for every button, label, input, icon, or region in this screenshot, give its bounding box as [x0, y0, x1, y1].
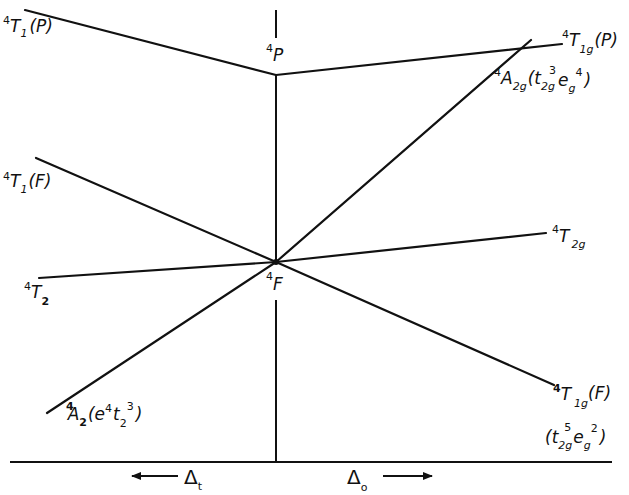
tetrahedral-field-indicator: Δt [132, 465, 203, 493]
line-4T1g-F-right [276, 262, 554, 385]
line-4T1-P-left [25, 10, 276, 75]
line-4T1-F-left [36, 158, 276, 262]
label-4T1-P: 4T1(P) [3, 14, 53, 40]
svg-text:Δo: Δo [347, 465, 368, 494]
label-4P: 4P [266, 42, 284, 65]
label-4T1g-P: 4T1g(P) [562, 28, 618, 56]
label-4T1-F: 4T1(F) [3, 170, 51, 196]
label-4A2: 4A2(e4t23) [66, 400, 142, 430]
line-4T2g-right [276, 233, 546, 262]
line-4A2-left [47, 262, 276, 413]
line-4A2g-right [276, 40, 531, 262]
label-4A2g: 4A2g(t2g3eg4) [494, 64, 591, 95]
octahedral-field-indicator: Δo [347, 465, 432, 494]
label-4T1g-F: 4T1g(F) [553, 382, 611, 410]
line-4T2-left [39, 262, 276, 278]
label-t1gf-configuration: (t2g5eg2) [545, 421, 606, 452]
line-4T1g-P-right [276, 44, 562, 75]
F-term-node [273, 259, 279, 265]
correlation-diagram: 4T1(P) 4P 4T1g(P) 4A2g(t2g3eg4) 4T1(F) 4… [0, 0, 629, 495]
label-4T2: 4T2 [24, 280, 49, 308]
label-4T2g: 4T2g [552, 223, 585, 251]
label-4F: 4F [266, 270, 283, 294]
svg-text:Δt: Δt [184, 465, 203, 493]
